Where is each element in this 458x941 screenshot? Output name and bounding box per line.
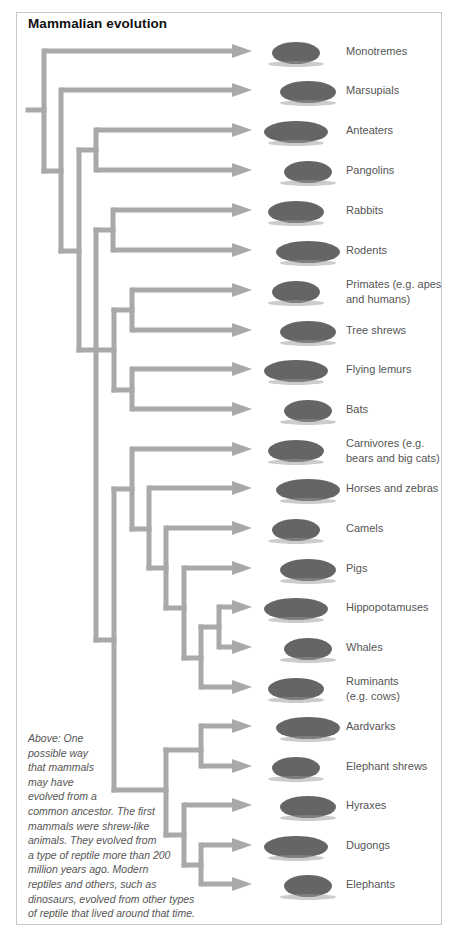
arrowhead-icon bbox=[232, 362, 252, 376]
figure-caption: Above: Onepossible waythat mammalsmay ha… bbox=[28, 731, 195, 921]
hyrax-illustration bbox=[268, 787, 348, 823]
taxon-label: Primates (e.g. apesand humans) bbox=[346, 277, 442, 306]
arrowhead-icon bbox=[232, 44, 252, 58]
taxon-label: Flying lemurs bbox=[346, 362, 442, 377]
arrowhead-icon bbox=[232, 640, 252, 654]
horse-illustration bbox=[268, 470, 348, 506]
caption-line: a type of reptile more than 200 bbox=[28, 848, 195, 863]
arrowhead-icon bbox=[232, 798, 252, 812]
taxon-label: Anteaters bbox=[346, 123, 442, 138]
arrowhead-icon bbox=[232, 561, 252, 575]
arrowhead-icon bbox=[232, 203, 252, 217]
taxon-label: Pangolins bbox=[346, 163, 442, 178]
aardvark-illustration bbox=[268, 708, 348, 744]
taxon-label: Bats bbox=[346, 402, 442, 417]
arrowhead-icon bbox=[232, 600, 252, 614]
rabbit-illustration bbox=[256, 192, 336, 228]
caption-line: evolved from a bbox=[28, 789, 195, 804]
camel-illustration bbox=[256, 510, 336, 546]
taxon-label: Monotremes bbox=[346, 44, 442, 59]
whale-illustration bbox=[268, 629, 348, 665]
caption-line: million years ago. Modern bbox=[28, 862, 195, 877]
taxon-label: Rabbits bbox=[346, 203, 442, 218]
arrowhead-icon bbox=[232, 83, 252, 97]
caption-line: common ancestor. The first bbox=[28, 804, 195, 819]
taxon-label: Marsupials bbox=[346, 83, 442, 98]
platypus-illustration bbox=[256, 33, 336, 69]
arrowhead-icon bbox=[232, 877, 252, 891]
rodent-illustration bbox=[268, 232, 348, 268]
taxon-label: Tree shrews bbox=[346, 323, 442, 338]
arrowhead-icon bbox=[232, 243, 252, 257]
cheetah-illustration bbox=[256, 431, 336, 467]
caption-line: that mammals bbox=[28, 760, 195, 775]
arrowhead-icon bbox=[232, 680, 252, 694]
dugong-illustration bbox=[256, 827, 336, 863]
taxon-label: Hyraxes bbox=[346, 798, 442, 813]
arrowhead-icon bbox=[232, 323, 252, 337]
sugar-glider-illustration bbox=[268, 72, 348, 108]
taxon-label: Camels bbox=[346, 521, 442, 536]
tree-shrew-illustration bbox=[268, 312, 348, 348]
elephant-shrew-illustration bbox=[256, 748, 336, 784]
arrowhead-icon bbox=[232, 719, 252, 733]
caption-line: possible way bbox=[28, 746, 195, 761]
hippopotamus-illustration bbox=[256, 589, 336, 625]
taxon-label: Carnivores (e.g.bears and big cats) bbox=[346, 436, 442, 465]
arrowhead-icon bbox=[232, 759, 252, 773]
taxon-label: Pigs bbox=[346, 561, 442, 576]
chimpanzee-illustration bbox=[256, 272, 336, 308]
caption-line: may have bbox=[28, 775, 195, 790]
arrowhead-icon bbox=[232, 838, 252, 852]
arrowhead-icon bbox=[232, 283, 252, 297]
taxon-label: Rodents bbox=[346, 243, 442, 258]
taxon-label: Elephants bbox=[346, 877, 442, 892]
caption-line: reptiles and others, such as bbox=[28, 877, 195, 892]
caption-line: of reptile that lived around that time. bbox=[28, 906, 195, 921]
arrowhead-icon bbox=[232, 163, 252, 177]
buffalo-illustration bbox=[256, 669, 336, 705]
arrowhead-icon bbox=[232, 442, 252, 456]
bat-illustration bbox=[268, 391, 348, 427]
taxon-label: Elephant shrews bbox=[346, 759, 442, 774]
arrowhead-icon bbox=[232, 481, 252, 495]
taxon-label: Whales bbox=[346, 640, 442, 655]
arrowhead-icon bbox=[232, 521, 252, 535]
taxon-label: Hippopotamuses bbox=[346, 600, 442, 615]
taxon-label: Horses and zebras bbox=[346, 481, 442, 496]
caption-line: mammals were shrew-like bbox=[28, 819, 195, 834]
caption-line: animals. They evolved from bbox=[28, 833, 195, 848]
flying-lemur-illustration bbox=[256, 351, 336, 387]
taxon-label: Aardvarks bbox=[346, 719, 442, 734]
arrowhead-icon bbox=[232, 123, 252, 137]
taxon-label: Dugongs bbox=[346, 838, 442, 853]
arrowhead-icon bbox=[232, 402, 252, 416]
elephant-illustration bbox=[268, 866, 348, 902]
anteater-illustration bbox=[256, 112, 336, 148]
caption-line: Above: One bbox=[28, 731, 195, 746]
pangolin-illustration bbox=[268, 152, 348, 188]
caption-line: dinosaurs, evolved from other types bbox=[28, 892, 195, 907]
taxon-label: Ruminants(e.g. cows) bbox=[346, 674, 442, 703]
boar-illustration bbox=[268, 550, 348, 586]
